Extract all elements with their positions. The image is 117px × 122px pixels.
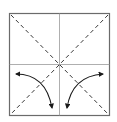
origami-diagram [0,0,117,122]
